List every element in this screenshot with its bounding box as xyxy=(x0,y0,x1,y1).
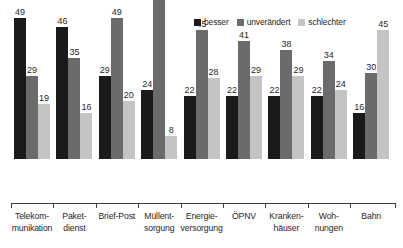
bar-besser[interactable]: 49 xyxy=(14,0,26,159)
bar-value-label: 29 xyxy=(27,65,37,75)
bar-schlechter[interactable]: 19 xyxy=(38,0,50,159)
x-axis-label-line: munikation xyxy=(8,223,56,235)
bar-value-label: 30 xyxy=(366,62,376,72)
bar-besser[interactable]: 46 xyxy=(56,0,68,159)
x-axis-label-line: Paket- xyxy=(50,211,98,223)
bar-value-label: 49 xyxy=(112,7,122,17)
x-axis-label-line: häuser xyxy=(262,223,310,235)
bar-schlechter[interactable]: 8 xyxy=(165,0,177,159)
bar-rect[interactable] xyxy=(226,96,238,159)
bar-value-label: 29 xyxy=(251,65,261,75)
bar-rect[interactable] xyxy=(353,113,365,159)
bar-value-label: 22 xyxy=(312,85,322,95)
bar-unverändert[interactable]: 41 xyxy=(238,0,250,159)
bar-value-label: 16 xyxy=(354,102,364,112)
x-axis-label-line: Müllent- xyxy=(135,211,183,223)
bar-group: 224528 xyxy=(184,0,220,159)
bar-value-label: 16 xyxy=(81,102,91,112)
bar-schlechter[interactable]: 45 xyxy=(377,0,389,159)
bar-schlechter[interactable]: 24 xyxy=(335,0,347,159)
bar-group: 24628 xyxy=(141,0,177,159)
bar-rect[interactable] xyxy=(68,58,80,159)
bar-rect[interactable] xyxy=(311,96,323,159)
plot-area: 4929194635162949202462822452822412922382… xyxy=(0,0,403,204)
x-axis-tick xyxy=(11,204,12,208)
x-axis-tick xyxy=(53,204,54,208)
bar-rect[interactable] xyxy=(250,76,262,159)
bar-unverändert[interactable]: 34 xyxy=(323,0,335,159)
bar-value-label: 22 xyxy=(227,85,237,95)
x-axis-label: Woh-nungen xyxy=(305,211,353,234)
bar-rect[interactable] xyxy=(80,113,92,159)
bar-rect[interactable] xyxy=(26,76,38,159)
x-axis-tick xyxy=(350,204,351,208)
bar-rect[interactable] xyxy=(111,18,123,159)
x-axis-label-line: Woh- xyxy=(305,211,353,223)
bar-rect[interactable] xyxy=(292,76,304,159)
x-axis-label: Energie-versorgung xyxy=(178,211,226,234)
bar-value-label: 34 xyxy=(324,50,334,60)
bar-rect[interactable] xyxy=(280,50,292,159)
bar-unverändert[interactable]: 45 xyxy=(196,0,208,159)
bar-rect[interactable] xyxy=(123,101,135,159)
bar-unverändert[interactable]: 35 xyxy=(68,0,80,159)
x-axis-label-line: Telekom- xyxy=(8,211,56,223)
bar-rect[interactable] xyxy=(184,96,196,159)
bar-rect[interactable] xyxy=(268,96,280,159)
bar-group: 223829 xyxy=(268,0,304,159)
bar-value-label: 49 xyxy=(15,7,25,17)
x-axis-label-line: versorgung xyxy=(178,223,226,235)
bar-schlechter[interactable]: 29 xyxy=(250,0,262,159)
bar-rect[interactable] xyxy=(14,18,26,159)
bar-unverändert[interactable]: 29 xyxy=(26,0,38,159)
x-axis-tick xyxy=(395,204,396,208)
bar-schlechter[interactable]: 28 xyxy=(208,0,220,159)
bar-rect[interactable] xyxy=(141,90,153,159)
bar-schlechter[interactable]: 20 xyxy=(123,0,135,159)
bar-rect[interactable] xyxy=(38,104,50,159)
bar-rect[interactable] xyxy=(165,136,177,159)
x-axis-label-line: sorgung xyxy=(135,223,183,235)
x-axis-label: Brief-Post xyxy=(93,211,141,223)
bar-value-label: 22 xyxy=(269,85,279,95)
x-axis-tick xyxy=(223,204,224,208)
bar-value-label: 45 xyxy=(197,19,207,29)
bar-rect[interactable] xyxy=(335,90,347,159)
bar-besser[interactable]: 22 xyxy=(226,0,238,159)
bar-besser[interactable]: 22 xyxy=(268,0,280,159)
bar-rect[interactable] xyxy=(323,61,335,159)
bar-rect[interactable] xyxy=(196,30,208,159)
bar-rect[interactable] xyxy=(238,41,250,159)
bar-group: 223424 xyxy=(311,0,347,159)
bar-besser[interactable]: 24 xyxy=(141,0,153,159)
bar-value-label: 24 xyxy=(336,79,346,89)
x-axis-tick xyxy=(308,204,309,208)
bar-group: 463516 xyxy=(56,0,92,159)
bar-besser[interactable]: 22 xyxy=(184,0,196,159)
bar-unverändert[interactable]: 49 xyxy=(111,0,123,159)
x-axis-label: Telekom-munikation xyxy=(8,211,56,234)
bar-rect[interactable] xyxy=(99,76,111,159)
x-axis-label: Paket-dienst xyxy=(50,211,98,234)
bar-unverändert[interactable]: 30 xyxy=(365,0,377,159)
x-axis-label: Bahn xyxy=(347,211,395,223)
bar-rect[interactable] xyxy=(365,73,377,159)
bar-rect[interactable] xyxy=(56,27,68,159)
x-axis-label-line: ÖPNV xyxy=(220,211,268,223)
x-axis-label-line: Energie- xyxy=(178,211,226,223)
x-axis-label-line: Kranken- xyxy=(262,211,310,223)
bar-schlechter[interactable]: 16 xyxy=(80,0,92,159)
bar-group: 224129 xyxy=(226,0,262,159)
bar-unverändert[interactable]: 38 xyxy=(280,0,292,159)
bar-besser[interactable]: 16 xyxy=(353,0,365,159)
bar-rect[interactable] xyxy=(377,30,389,159)
bar-unverändert[interactable]: 62 xyxy=(153,0,165,159)
bar-schlechter[interactable]: 29 xyxy=(292,0,304,159)
bar-rect[interactable] xyxy=(153,0,165,159)
bar-besser[interactable]: 29 xyxy=(99,0,111,159)
bar-value-label: 29 xyxy=(100,65,110,75)
bar-rect[interactable] xyxy=(208,78,220,159)
bar-value-label: 20 xyxy=(124,90,134,100)
bar-besser[interactable]: 22 xyxy=(311,0,323,159)
bar-value-label: 28 xyxy=(209,67,219,77)
